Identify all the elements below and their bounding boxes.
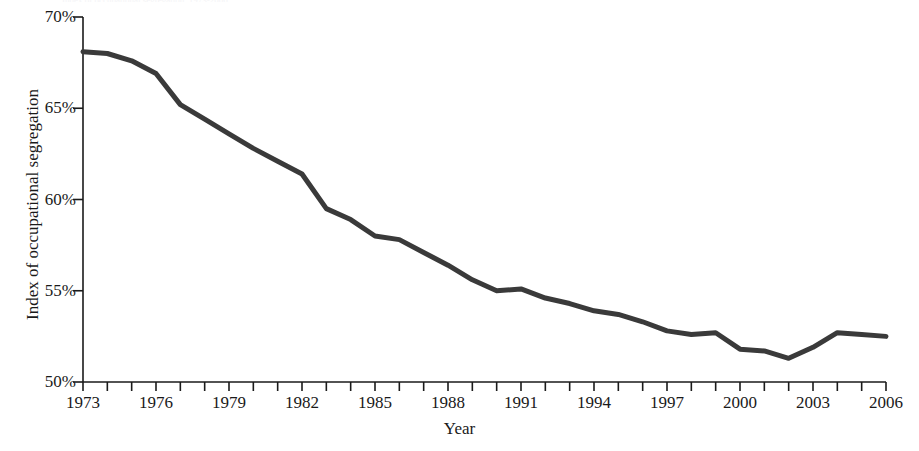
x-axis-tick-label: 1994: [554, 393, 634, 412]
x-axis-tick-label: 1973: [43, 393, 123, 412]
x-axis-tick-label: 2006: [846, 393, 919, 412]
chart-container: Index of occupational segregation, 1973-…: [0, 0, 919, 451]
x-axis-tick-label: 1991: [481, 393, 561, 412]
x-axis-tick-label: 1982: [262, 393, 342, 412]
x-axis-tick-label-group: 1973197619791982198519881991199419972000…: [0, 0, 919, 451]
x-axis-tick-label: 2000: [700, 393, 780, 412]
x-axis-tick-label: 1997: [627, 393, 707, 412]
x-axis-tick-label: 1979: [189, 393, 269, 412]
x-axis-title: Year: [0, 419, 919, 438]
x-axis-tick-label: 2003: [773, 393, 853, 412]
y-axis-title: Index of occupational segregation: [23, 25, 42, 385]
x-axis-tick-label: 1985: [335, 393, 415, 412]
x-axis-tick-label: 1976: [116, 393, 196, 412]
x-axis-tick-label: 1988: [408, 393, 488, 412]
